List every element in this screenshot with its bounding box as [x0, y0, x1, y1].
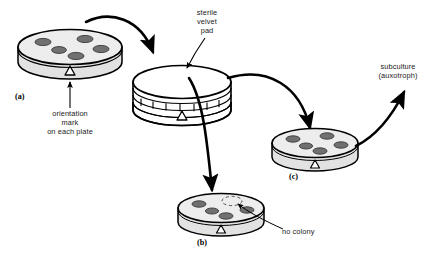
arrow-pad-to-c: [228, 75, 310, 128]
figure-canvas: sterile velvet pad orientation mark on e…: [0, 0, 444, 266]
label-orientation-mark: orientation mark on each plate: [27, 109, 113, 137]
label-no-colony: no colony: [282, 227, 338, 236]
replica-plate-c: [272, 129, 358, 172]
leader-velvet-pad: [187, 38, 205, 68]
master-plate: [18, 30, 122, 80]
label-subculture: subculture (auxotroph): [356, 62, 440, 80]
replica-plate-b: [178, 194, 264, 237]
velvet-pad-block: [133, 66, 231, 126]
panel-letter-a: (a): [15, 92, 25, 101]
arrow-c-to-subculture: [356, 92, 404, 146]
panel-letter-c: (c): [289, 172, 298, 181]
label-sterile-velvet-pad: sterile velvet pad: [178, 8, 236, 36]
panel-letter-b: (b): [197, 238, 207, 247]
